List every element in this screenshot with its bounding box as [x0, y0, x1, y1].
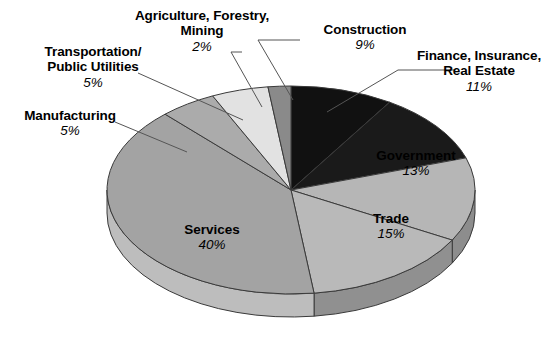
slice-label-line2: Public Utilities — [18, 59, 168, 74]
slice-label-finance-insurance-real-estate: Finance, Insurance, Real Estate 11% — [404, 48, 554, 94]
slice-label-line1: Construction — [302, 22, 428, 37]
slice-label-line1: Transportation/ — [18, 44, 168, 59]
slice-label-line1: Government — [355, 148, 477, 163]
slice-label-transportation-public-utilities: Transportation/ Public Utilities 5% — [18, 44, 168, 90]
slice-label-line1: Services — [168, 222, 256, 237]
pie-top-faces — [107, 86, 475, 294]
slice-label-line1: Trade — [358, 211, 424, 226]
slice-label-manufacturing: Manufacturing 5% — [4, 108, 136, 139]
slice-percent: 11% — [404, 79, 554, 94]
slice-label-government: Government 13% — [355, 148, 477, 179]
slice-percent: 5% — [18, 75, 168, 90]
slice-label-line1: Agriculture, Forestry, — [124, 8, 280, 23]
slice-label-line1: Manufacturing — [4, 108, 136, 123]
slice-label-line2: Mining — [124, 23, 280, 38]
slice-percent: 15% — [358, 226, 424, 241]
slice-percent: 13% — [355, 163, 477, 178]
slice-label-line1: Finance, Insurance, — [404, 48, 554, 63]
slice-label-trade: Trade 15% — [358, 211, 424, 242]
slice-percent: 5% — [4, 123, 136, 138]
slice-label-services: Services 40% — [168, 222, 256, 253]
slice-label-line2: Real Estate — [404, 63, 554, 78]
slice-percent: 40% — [168, 237, 256, 252]
pie-chart: Agriculture, Forestry, Mining 2% Transpo… — [0, 0, 558, 339]
